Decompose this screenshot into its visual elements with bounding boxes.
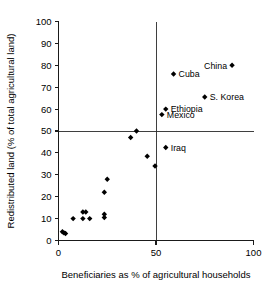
data-point-cuba	[171, 71, 176, 76]
data-point-unlabeled-18	[87, 216, 92, 221]
y-tick-label-50: 50	[41, 125, 52, 136]
scatter-chart-figure: 0102030405060708090100050100Beneficiarie…	[0, 0, 273, 285]
chart-canvas: 0102030405060708090100050100Beneficiarie…	[0, 0, 273, 285]
x-tick-label-50: 50	[151, 247, 162, 258]
y-tick-label-100: 100	[36, 16, 52, 27]
data-point-label-iraq: Iraq	[171, 143, 186, 153]
data-point-label-cuba: Cuba	[179, 69, 200, 79]
y-tick-label-60: 60	[41, 104, 52, 115]
data-point-unlabeled-17	[80, 216, 85, 221]
y-tick-label-10: 10	[41, 213, 52, 224]
y-tick-label-80: 80	[41, 60, 52, 71]
data-point-unlabeled-7	[128, 135, 133, 140]
y-tick-label-20: 20	[41, 191, 52, 202]
x-axis-title: Beneficiaries as % of agricultural house…	[61, 269, 250, 280]
data-point-mexico	[159, 112, 164, 117]
x-tick-label-0: 0	[56, 247, 61, 258]
data-point-unlabeled-13	[83, 209, 88, 214]
data-point-unlabeled-16	[70, 216, 75, 221]
data-point-china	[229, 63, 234, 68]
data-point-unlabeled-10	[105, 176, 110, 181]
y-tick-label-90: 90	[41, 38, 52, 49]
data-point-unlabeled-6	[134, 128, 139, 133]
y-tick-label-70: 70	[41, 82, 52, 93]
data-point-unlabeled-15	[102, 215, 107, 220]
data-point-label-china: China	[204, 61, 227, 71]
y-tick-label-0: 0	[46, 235, 51, 246]
data-point-unlabeled-11	[102, 190, 107, 195]
y-tick-label-30: 30	[41, 169, 52, 180]
data-point-iraq	[163, 145, 168, 150]
data-point-unlabeled-9	[152, 163, 157, 168]
data-point-label-s-korea: S. Korea	[210, 92, 244, 102]
y-axis-title: Redistributed land (% of total agricultu…	[5, 34, 16, 229]
y-tick-label-40: 40	[41, 147, 52, 158]
data-point-unlabeled-8	[145, 153, 150, 158]
x-tick-label-100: 100	[246, 247, 262, 258]
data-point-s-korea	[202, 94, 207, 99]
data-point-label-mexico: Mexico	[167, 110, 195, 120]
